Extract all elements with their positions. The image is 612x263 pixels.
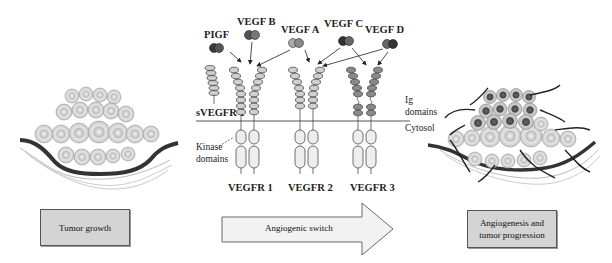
svg-text:VEGF D: VEGF D xyxy=(365,24,404,35)
ig-domains-label-2: domains xyxy=(405,107,437,117)
vegfr2-label: VEGFR 2 xyxy=(288,182,333,193)
tumor-growth-illustration xyxy=(20,87,178,189)
svegfr1-receptor xyxy=(205,66,219,104)
ligand-vegf-a: VEGF A xyxy=(257,24,320,66)
tumor-growth-label: Tumor growth xyxy=(59,222,111,234)
kinase-label-1: Kinase xyxy=(196,142,222,152)
tumor-growth-box: Tumor growth xyxy=(40,209,130,246)
angiogenesis-tumor-illustration xyxy=(428,85,600,184)
ligand-vegf-c: VEGF C xyxy=(318,18,366,65)
svg-text:VEGF B: VEGF B xyxy=(237,16,275,27)
ligand-pigf: PIGF xyxy=(204,29,241,62)
vegfr1-label: VEGFR 1 xyxy=(228,182,273,193)
angiogenesis-box: Angiogenesis and tumor progression xyxy=(467,210,557,248)
ig-domains-label-1: Ig xyxy=(405,95,413,105)
vegf-diagram: PIGF VEGF B VEGF A VEGF C VEGF D xyxy=(0,0,612,263)
vegfr3-label: VEGFR 3 xyxy=(350,182,395,193)
angiogenesis-label-2: tumor progression xyxy=(479,229,545,241)
svg-text:VEGF A: VEGF A xyxy=(281,24,320,35)
svg-text:PIGF: PIGF xyxy=(204,29,229,40)
angiogenesis-label-1: Angiogenesis and xyxy=(480,217,544,229)
ligand-vegf-d: VEGF D xyxy=(323,24,404,66)
angiogenic-switch-label: Angiogenic switch xyxy=(265,223,333,233)
kinase-label-2: domains xyxy=(196,154,228,164)
cytosol-label: Cytosol xyxy=(405,123,435,133)
svg-text:VEGF C: VEGF C xyxy=(324,18,363,29)
ligand-vegf-b: VEGF B xyxy=(237,16,275,64)
